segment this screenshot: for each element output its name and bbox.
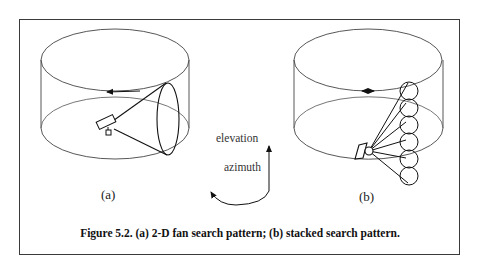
azimuth-arrow <box>211 191 269 205</box>
antenna-icon-b <box>355 143 373 159</box>
fan-beam-a <box>110 83 179 155</box>
panel-b-label: (b) <box>359 189 374 205</box>
elevation-label: elevation <box>216 132 258 144</box>
stacked-beams-b <box>369 82 418 185</box>
antenna-icon-a <box>96 115 116 135</box>
figure-caption: Figure 5.2. (a) 2-D fan search pattern; … <box>0 227 480 239</box>
panel-a-label: (a) <box>101 187 115 203</box>
cylinder-b <box>294 29 443 159</box>
azimuth-label: azimuth <box>224 161 261 173</box>
cylinder-a <box>41 29 189 159</box>
